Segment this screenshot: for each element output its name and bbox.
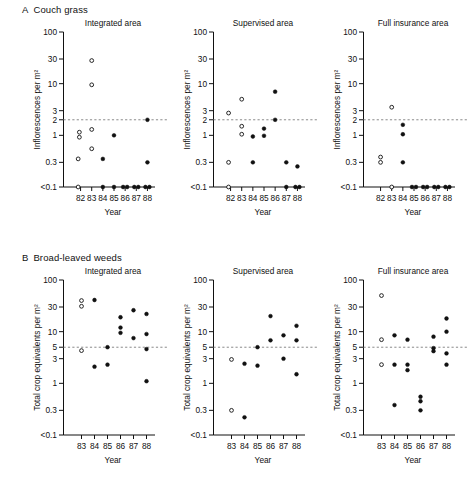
- y-tick-label: 2: [202, 115, 207, 125]
- data-point-filled: [444, 185, 448, 189]
- y-tick-label: 30: [48, 302, 58, 312]
- x-tick-label: 86: [121, 193, 131, 203]
- y-tick-label: 100: [43, 27, 57, 37]
- data-point-filled: [106, 363, 110, 367]
- data-point-filled: [401, 123, 405, 127]
- y-tick-label: 1: [352, 130, 357, 140]
- axis-lines: [64, 32, 156, 187]
- y-tick-label: 10: [198, 79, 208, 89]
- data-point-filled: [432, 335, 436, 339]
- data-point-filled: [401, 160, 405, 164]
- plot-area: 10030103210.3<0.182838485868788Year: [213, 32, 319, 221]
- y-tick-label: 10: [48, 327, 58, 337]
- data-point-filled: [393, 403, 397, 407]
- data-point-filled: [295, 324, 299, 328]
- x-tick-label: 88: [142, 441, 152, 451]
- y-tick-label: <0.1: [191, 182, 208, 192]
- y-tick-label: 1: [202, 378, 207, 388]
- panel-title: Supervised area: [217, 266, 309, 276]
- x-tick-label: 87: [432, 193, 442, 203]
- x-tick-label: 83: [237, 193, 247, 203]
- data-point-open: [76, 185, 80, 189]
- y-tick-label: 3: [52, 354, 57, 364]
- data-point-filled: [445, 317, 449, 321]
- data-point-open: [379, 160, 383, 164]
- data-point-filled: [410, 185, 414, 189]
- data-point-open: [90, 59, 94, 63]
- plot-area: 10030105310.3<0.1838485868788Year: [63, 280, 169, 469]
- y-tick-label: 1: [202, 130, 207, 140]
- x-tick-label: 88: [292, 441, 302, 451]
- y-axis-label: Total crop equivalents per m²: [182, 280, 192, 435]
- data-point-filled: [243, 415, 247, 419]
- x-tick-label: 86: [416, 441, 426, 451]
- x-tick-label: 87: [429, 441, 439, 451]
- y-tick-label: 0.3: [195, 405, 207, 415]
- data-point-filled: [269, 338, 273, 342]
- data-point-filled: [101, 157, 105, 161]
- panel-title: Supervised area: [217, 18, 309, 28]
- plot-area: 10030105310.3<0.1838485868788Year: [213, 280, 319, 469]
- panel-title: Integrated area: [67, 18, 159, 28]
- data-point-filled: [393, 363, 397, 367]
- data-point-filled: [445, 351, 449, 355]
- axis-lines: [64, 280, 156, 435]
- data-point-filled: [295, 338, 299, 342]
- data-point-filled: [148, 185, 152, 189]
- data-point-open: [390, 105, 394, 109]
- data-point-filled: [419, 395, 423, 399]
- data-point-filled: [145, 379, 149, 383]
- data-point-filled: [251, 160, 255, 164]
- y-tick-label: <0.1: [41, 430, 58, 440]
- y-tick-label: <0.1: [191, 430, 208, 440]
- x-tick-label: 84: [90, 441, 100, 451]
- y-tick-label: 2: [52, 115, 57, 125]
- y-tick-label: 100: [193, 275, 207, 285]
- x-tick-label: 85: [259, 193, 269, 203]
- y-tick-label: 3: [352, 354, 357, 364]
- data-point-filled: [414, 185, 418, 189]
- y-tick-label: 10: [198, 327, 208, 337]
- data-point-filled: [445, 363, 449, 367]
- x-tick-label: 82: [76, 193, 86, 203]
- x-tick-label: 88: [143, 193, 153, 203]
- panel-title: Integrated area: [67, 266, 159, 276]
- data-point-filled: [406, 363, 410, 367]
- data-point-filled: [93, 298, 97, 302]
- data-point-open: [230, 408, 234, 412]
- y-tick-label: 30: [198, 54, 208, 64]
- x-tick-label: 86: [266, 441, 276, 451]
- data-point-filled: [106, 345, 110, 349]
- y-axis-label: Total crop equivalents per m²: [32, 280, 42, 435]
- data-point-filled: [251, 135, 255, 139]
- data-point-open: [227, 185, 231, 189]
- y-tick-label: 5: [352, 342, 357, 352]
- data-point-filled: [112, 185, 116, 189]
- data-point-filled: [448, 185, 452, 189]
- data-point-filled: [112, 133, 116, 137]
- data-point-filled: [273, 90, 277, 94]
- plot-area: 10030105310.3<0.1838485868788Year: [363, 280, 469, 469]
- y-tick-label: <0.1: [341, 430, 358, 440]
- x-tick-label: 83: [387, 193, 397, 203]
- x-tick-label: 88: [443, 193, 453, 203]
- data-point-open: [90, 147, 94, 151]
- y-tick-label: 0.3: [45, 157, 57, 167]
- y-tick-label: 5: [202, 342, 207, 352]
- x-tick-label: 84: [398, 193, 408, 203]
- data-point-open: [240, 97, 244, 101]
- data-point-open: [230, 358, 234, 362]
- data-point-filled: [101, 185, 105, 189]
- data-point-open: [380, 294, 384, 298]
- x-tick-label: 88: [293, 193, 303, 203]
- data-point-filled: [144, 185, 148, 189]
- x-tick-label: 88: [442, 441, 452, 451]
- x-tick-label: 84: [240, 441, 250, 451]
- y-tick-label: 0.3: [45, 405, 57, 415]
- data-point-open: [80, 349, 84, 353]
- x-axis-label: Year: [405, 207, 422, 217]
- row-a-heading: ACouch grass: [22, 4, 88, 15]
- data-point-filled: [262, 134, 266, 138]
- y-tick-label: 10: [48, 79, 58, 89]
